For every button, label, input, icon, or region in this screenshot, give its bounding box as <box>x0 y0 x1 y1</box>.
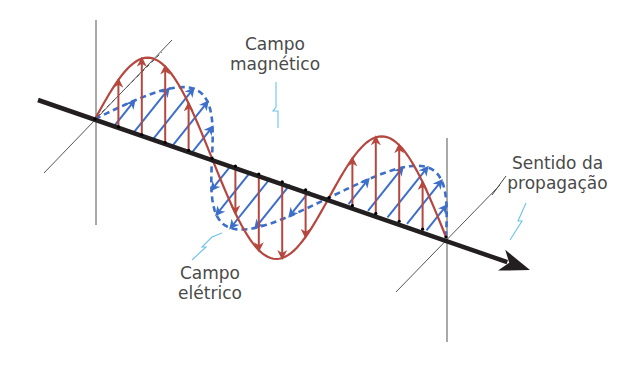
magnetic-vector-arrow <box>154 89 194 139</box>
magnetic-vector-arrow <box>193 127 213 152</box>
axis-dot <box>374 212 377 215</box>
propagation-direction-label: Sentido da propagação <box>490 153 625 193</box>
axis-dot <box>210 157 213 160</box>
electric-leader-line <box>192 233 222 260</box>
propagation-label-line-1: Sentido da <box>490 153 625 173</box>
magnetic-field-label: Campo magnético <box>216 34 334 74</box>
axis-dot <box>351 204 354 207</box>
axis-dot <box>234 165 237 168</box>
axis-dot <box>281 180 284 183</box>
magnetic-vector-arrow <box>231 178 271 228</box>
electric-field-label: Campo elétrico <box>170 263 250 303</box>
propagation-axis <box>38 100 530 271</box>
electric-label-line-1: Campo <box>170 263 250 283</box>
magnetic-vector-arrow <box>212 165 232 190</box>
magnetic-label-line-1: Campo <box>216 34 334 54</box>
axis-dot <box>444 235 447 238</box>
electric-envelope <box>95 58 446 259</box>
magnetic-label-line-2: magnético <box>216 54 334 74</box>
axis-dot <box>398 220 401 223</box>
axis-dot <box>304 188 307 191</box>
electric-field <box>95 58 446 259</box>
axis-dot <box>187 149 190 152</box>
axis-dot <box>257 172 260 175</box>
magnetic-field <box>95 87 447 237</box>
axis-dot <box>164 141 167 144</box>
magnetic-envelope <box>95 87 447 237</box>
axis-dot <box>140 133 143 136</box>
magnetic-vector-arrow <box>388 167 428 217</box>
propagation-axis-line <box>38 100 507 262</box>
axis-dot <box>93 117 96 120</box>
propagation-label-line-2: propagação <box>490 173 625 193</box>
axis-dot <box>327 196 330 199</box>
magnetic-vector-arrow <box>427 205 447 230</box>
diagonal-guide-line <box>396 185 500 292</box>
axis-dot <box>117 125 120 128</box>
axis-dot <box>421 228 424 231</box>
electric-label-line-2: elétrico <box>170 283 250 303</box>
magnetic-leader-line <box>273 82 278 128</box>
propagation-leader-line <box>510 203 526 240</box>
